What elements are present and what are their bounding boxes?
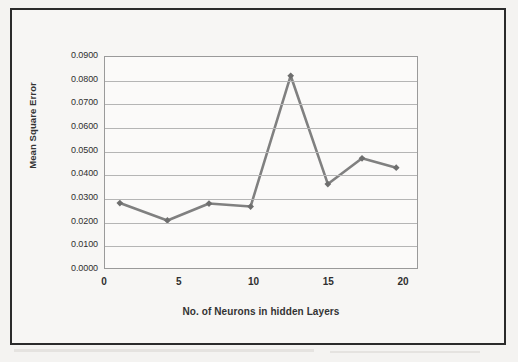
plot-area xyxy=(104,56,418,269)
line-chart: Mean Square Error 0.00000.01000.02000.03… xyxy=(0,0,518,362)
y-axis-tick-labels: 0.00000.01000.02000.03000.04000.05000.06… xyxy=(42,0,98,362)
gridline xyxy=(105,199,417,200)
y-tick-label: 0.0900 xyxy=(42,50,98,60)
scan-artifact xyxy=(14,349,314,352)
scan-artifact xyxy=(330,351,480,353)
screenshot-root: Mean Square Error 0.00000.01000.02000.03… xyxy=(0,0,518,362)
x-tick-label: 0 xyxy=(84,276,124,287)
x-tick-label: 5 xyxy=(159,276,199,287)
x-tick-label: 10 xyxy=(234,276,274,287)
gridline xyxy=(105,81,417,82)
gridline xyxy=(105,223,417,224)
data-point-marker xyxy=(393,164,400,171)
data-point-marker xyxy=(287,72,294,79)
gridline xyxy=(105,246,417,247)
x-axis-title: No. of Neurons in hidden Layers xyxy=(104,306,418,317)
x-axis-tick-labels: 05101520 xyxy=(104,276,418,292)
y-tick-label: 0.0000 xyxy=(42,263,98,273)
y-tick-label: 0.0600 xyxy=(42,121,98,131)
series-line-mean-square-error xyxy=(105,57,417,268)
y-tick-label: 0.0300 xyxy=(42,192,98,202)
y-axis-title: Mean Square Error xyxy=(27,66,38,186)
y-tick-label: 0.0100 xyxy=(42,239,98,249)
gridline xyxy=(105,152,417,153)
x-tick-label: 20 xyxy=(383,276,423,287)
gridline xyxy=(105,175,417,176)
gridline xyxy=(105,104,417,105)
y-tick-label: 0.0200 xyxy=(42,216,98,226)
y-tick-label: 0.0400 xyxy=(42,168,98,178)
x-tick-label: 15 xyxy=(308,276,348,287)
data-point-marker xyxy=(116,200,123,207)
y-tick-label: 0.0700 xyxy=(42,97,98,107)
gridline xyxy=(105,128,417,129)
y-tick-label: 0.0800 xyxy=(42,74,98,84)
data-point-marker xyxy=(206,200,213,207)
data-point-marker xyxy=(247,203,254,210)
y-tick-label: 0.0500 xyxy=(42,145,98,155)
series-markers xyxy=(116,72,399,223)
